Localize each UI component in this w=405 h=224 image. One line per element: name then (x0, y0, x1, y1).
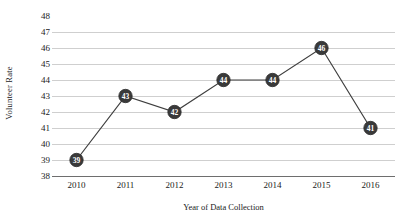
y-axis-title-label: Volunteer Rate (4, 66, 14, 119)
x-tick-label: 2010 (55, 180, 99, 191)
y-tick-label: 48 (24, 12, 50, 21)
y-tick-label: 40 (24, 140, 50, 149)
data-point-marker: 44 (217, 73, 230, 86)
marker-value-label: 39 (73, 156, 81, 165)
y-tick-label: 38 (24, 172, 50, 181)
y-axis-tick-labels: 4847464544434241403938 (18, 0, 50, 224)
y-tick-label: 42 (24, 108, 50, 117)
x-axis-tick-labels: 2010201120122013201420152016 (52, 180, 395, 194)
y-tick-label: 41 (24, 124, 50, 133)
marker-value-label: 44 (269, 76, 277, 85)
x-tick-label: 2016 (349, 180, 393, 191)
x-axis-title-label: Year of Data Collection (183, 202, 264, 212)
data-point-marker: 44 (266, 73, 279, 86)
y-tick-label: 46 (24, 44, 50, 53)
y-tick-label: 43 (24, 92, 50, 101)
marker-value-label: 46 (318, 44, 326, 53)
data-point-marker: 39 (70, 153, 83, 166)
marker-value-label: 44 (220, 76, 228, 85)
data-point-marker: 43 (119, 89, 132, 102)
y-tick-label: 45 (24, 60, 50, 69)
marker-value-label: 43 (122, 92, 130, 101)
chart-container: Volunteer Rate 4847464544434241403938 39… (0, 0, 405, 224)
x-axis-title: Year of Data Collection (52, 202, 395, 212)
data-point-marker: 41 (364, 121, 377, 134)
x-tick-label: 2012 (153, 180, 197, 191)
y-tick-label: 44 (24, 76, 50, 85)
marker-value-label: 42 (171, 108, 179, 117)
data-point-marker: 46 (315, 41, 328, 54)
plot-area: 39434244444641 (52, 16, 395, 176)
x-tick-label: 2013 (202, 180, 246, 191)
line-series: 39434244444641 (52, 16, 395, 176)
x-tick-label: 2015 (300, 180, 344, 191)
marker-value-label: 41 (367, 124, 375, 133)
gridline-38 (52, 176, 395, 177)
data-point-markers: 39434244444641 (70, 41, 377, 166)
y-tick-label: 39 (24, 156, 50, 165)
y-tick-label: 47 (24, 28, 50, 37)
series-polyline (77, 48, 371, 160)
y-axis-title: Volunteer Rate (0, 0, 18, 185)
x-tick-label: 2014 (251, 180, 295, 191)
data-point-marker: 42 (168, 105, 181, 118)
x-tick-label: 2011 (104, 180, 148, 191)
